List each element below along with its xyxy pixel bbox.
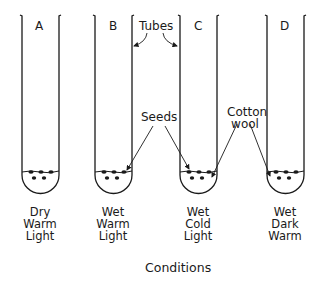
tube-b xyxy=(93,15,134,194)
seeds xyxy=(28,170,298,180)
tube-label-b: B xyxy=(109,20,117,32)
experiment-diagram xyxy=(0,0,321,297)
tube-label-a: A xyxy=(35,20,43,32)
seeds-annotation: Seeds xyxy=(141,111,177,123)
conditions-a: Dry Warm Light xyxy=(15,206,65,242)
conditions-d: Wet Dark Warm xyxy=(260,206,310,242)
tube-c xyxy=(178,15,219,194)
tube-a xyxy=(20,15,61,194)
arrow-seeds-b xyxy=(127,126,153,170)
cotton-wool-annotation: Cotton wool xyxy=(227,106,263,130)
conditions-c: Wet Cold Light xyxy=(173,206,223,242)
tube-label-c: C xyxy=(194,20,202,32)
conditions-caption: Conditions xyxy=(145,262,211,274)
arrow-seeds-c xyxy=(165,126,189,169)
tubes-annotation: Tubes xyxy=(139,20,173,32)
conditions-b: Wet Warm Light xyxy=(88,206,138,242)
tube-d xyxy=(265,15,306,193)
arrow-cotton-c xyxy=(212,124,237,177)
arrow-tubes-right xyxy=(163,33,177,46)
arrow-tubes-left xyxy=(134,33,147,46)
tube-label-d: D xyxy=(280,20,289,32)
